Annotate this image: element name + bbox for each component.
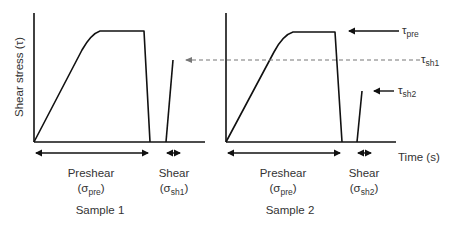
sample-1-preshear-sigma: (σpre): [77, 183, 104, 197]
sample-1-plot: [34, 13, 205, 153]
sample-2-shear-sigma: (σsh2): [350, 183, 379, 197]
sample-2-preshear-label: Preshear: [260, 168, 307, 180]
sample-1-preshear-curve: [34, 31, 150, 142]
sample-1-title: Sample 1: [76, 205, 125, 217]
sample-2-title: Sample 2: [266, 205, 315, 217]
sample-1-preshear-label: Preshear: [68, 168, 115, 180]
x-axis-label: Time (s): [398, 152, 440, 164]
tau-sh2-label: τsh2: [398, 85, 416, 99]
sample-2-preshear-curve: [226, 32, 342, 142]
y-axis-label: Shear stress (τ): [13, 37, 25, 117]
tau-pre-label: τpre: [402, 25, 419, 39]
sample-2-preshear-sigma: (σpre): [269, 183, 296, 197]
sample-1-shear-sigma: (σsh1): [160, 183, 189, 197]
shear-stress-diagram: [0, 0, 449, 225]
sample-1-shear-spike: [166, 60, 173, 142]
sample-2-shear-label: Shear: [349, 168, 380, 180]
sample-2-shear-spike: [357, 91, 362, 142]
sample-2-plot: [226, 13, 396, 153]
tau-sh1-label: τsh1: [421, 54, 439, 68]
sample-1-shear-label: Shear: [159, 168, 190, 180]
